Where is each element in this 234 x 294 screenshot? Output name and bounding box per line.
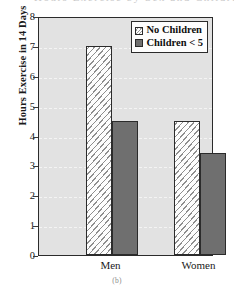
legend: No Children Children < 5	[131, 21, 208, 53]
y-tick-mark	[33, 256, 38, 257]
legend-swatch-hatched-icon	[135, 27, 143, 35]
bar	[112, 121, 138, 255]
x-tick-label: Men	[100, 259, 120, 271]
legend-label: No Children	[146, 25, 202, 36]
bar-chart-figure: Hours Exercise in 14 Days 012345678 No C…	[0, 0, 234, 294]
bar	[86, 46, 112, 255]
figure-caption: (b)	[0, 276, 234, 285]
bar-series-layer	[39, 18, 212, 255]
bar	[200, 153, 226, 255]
legend-swatch-solid-icon	[135, 39, 143, 47]
x-axis-tick-labels: MenWomen	[38, 259, 213, 275]
plot-area: No Children Children < 5	[38, 17, 213, 256]
bar	[174, 121, 200, 255]
legend-item-children-under-5[interactable]: Children < 5	[135, 37, 203, 49]
legend-label: Children < 5	[146, 38, 203, 49]
legend-item-no-children[interactable]: No Children	[135, 25, 203, 37]
x-tick-label: Women	[182, 259, 216, 271]
